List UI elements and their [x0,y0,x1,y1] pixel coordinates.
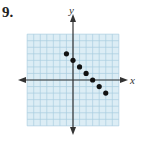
y-axis-label: y [68,4,74,16]
data-point [77,64,82,69]
coordinate-plane: x y [0,0,143,143]
data-point [84,71,89,76]
y-axis-bottom-arrow-icon [70,127,76,135]
data-point [70,58,75,63]
x-axis-left-arrow-icon [18,77,26,83]
data-point [103,91,108,96]
x-axis-label: x [129,74,135,86]
x-axis-right-arrow-icon [120,77,128,83]
data-point [64,51,69,56]
data-point [90,77,95,82]
data-point [97,84,102,89]
